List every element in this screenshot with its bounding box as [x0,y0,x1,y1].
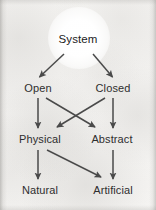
arrow-closed-physical [57,98,105,127]
node-closed: Closed [96,83,131,94]
arrow-system-closed [93,54,113,77]
arrow-open-abstract [46,98,95,127]
diagram-canvas: System Open Closed Physical Abstract Nat… [0,0,156,210]
arrow-physical-artificial [47,150,101,177]
node-natural: Natural [22,185,58,196]
node-abstract: Abstract [91,134,132,145]
arrow-layer [0,0,156,210]
arrow-system-open [40,54,65,77]
node-open: Open [24,83,51,94]
node-artificial: Artificial [93,185,133,196]
node-physical: Physical [19,134,61,145]
node-system: System [59,34,98,46]
